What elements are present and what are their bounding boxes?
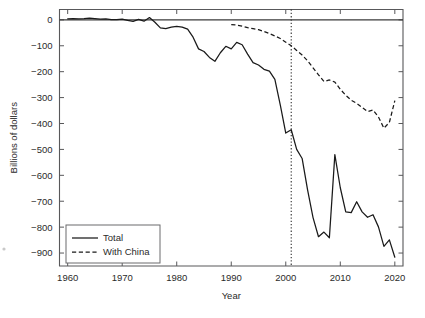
x-tick-label: 2000 xyxy=(275,272,296,283)
chart-figure: 0−100−200−300−400−500−600−700−800−900 19… xyxy=(0,0,425,318)
y-tick-label: −900 xyxy=(31,247,52,258)
y-axis-title: Billions of dollars xyxy=(8,102,19,174)
y-tick-label: −600 xyxy=(31,170,52,181)
legend-label-with-china[interactable]: With China xyxy=(103,246,150,257)
y-tick-label: −500 xyxy=(31,144,52,155)
trade-balance-line-chart: 0−100−200−300−400−500−600−700−800−900 19… xyxy=(0,0,425,318)
y-tick-label: −200 xyxy=(31,66,52,77)
legend-label-total[interactable]: Total xyxy=(103,232,123,243)
stray-artifact-dot xyxy=(2,247,5,250)
x-tick-label: 2010 xyxy=(330,272,351,283)
y-tick-label: −300 xyxy=(31,92,52,103)
y-tick-label: −700 xyxy=(31,196,52,207)
x-tick-label: 1960 xyxy=(57,272,78,283)
y-tick-label: −800 xyxy=(31,222,52,233)
x-tick-label: 1980 xyxy=(166,272,187,283)
chart-legend[interactable]: Total With China xyxy=(66,225,160,263)
y-tick-label: −400 xyxy=(31,118,52,129)
figure-background xyxy=(0,0,425,318)
x-axis-title: Year xyxy=(222,290,241,301)
x-tick-label: 1970 xyxy=(112,272,133,283)
x-tick-label: 1990 xyxy=(221,272,242,283)
x-tick-label: 2020 xyxy=(384,272,405,283)
y-tick-label: −100 xyxy=(31,40,52,51)
y-tick-label: 0 xyxy=(47,14,52,25)
